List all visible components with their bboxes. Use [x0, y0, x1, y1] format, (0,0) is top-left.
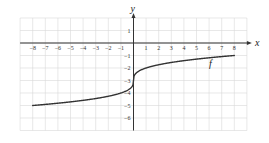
x-tick-label: 4: [182, 45, 185, 51]
x-tick-label: 6: [208, 45, 211, 51]
y-tick-label: −2: [124, 65, 130, 71]
x-axis-arrow-icon: [247, 41, 252, 45]
y-tick-label: −5: [124, 103, 130, 109]
x-tick-label: −8: [30, 45, 36, 51]
x-tick-label: −1: [118, 45, 124, 51]
y-tick-labels: 1−1−2−3−4−5−6: [124, 28, 130, 122]
x-tick-label: −4: [80, 45, 86, 51]
x-tick-label: −3: [93, 45, 99, 51]
x-tick-label: 5: [195, 45, 198, 51]
function-label: f: [209, 58, 213, 69]
x-tick-label: 3: [170, 45, 173, 51]
y-tick-label: −6: [124, 115, 130, 121]
x-tick-label: −2: [105, 45, 111, 51]
x-tick-label: −7: [42, 45, 48, 51]
y-tick-label: −1: [124, 53, 130, 59]
y-tick-label: −3: [124, 78, 130, 84]
x-tick-label: 1: [145, 45, 148, 51]
function-graph: −8−7−6−5−4−3−2−112345678 1−1−2−3−4−5−6 x…: [0, 0, 269, 143]
y-axis-label: y: [130, 3, 136, 14]
x-tick-label: 8: [233, 45, 236, 51]
x-tick-label: 7: [220, 45, 223, 51]
x-tick-labels: −8−7−6−5−4−3−2−112345678: [30, 45, 236, 51]
x-axis-label: x: [254, 37, 260, 48]
x-tick-label: −6: [55, 45, 61, 51]
x-tick-label: −5: [67, 45, 73, 51]
y-tick-label: 1: [128, 28, 131, 34]
x-tick-label: 2: [157, 45, 160, 51]
